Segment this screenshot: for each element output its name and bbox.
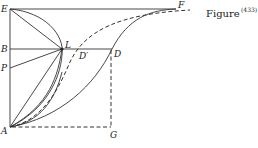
dashed-curve-AD'F xyxy=(10,10,190,127)
label-P: P xyxy=(0,63,8,73)
geometry-diagram: E F B P L D′ D A G Figure (433) xyxy=(0,0,258,148)
label-A: A xyxy=(0,126,8,136)
figure-caption: Figure xyxy=(206,8,240,19)
line-EL xyxy=(10,9,62,49)
figure-caption-number: (433) xyxy=(241,6,257,13)
label-F: F xyxy=(177,0,185,10)
label-B: B xyxy=(0,44,8,54)
line-AL xyxy=(10,49,62,127)
label-G: G xyxy=(110,130,117,140)
circle-arc-ELA xyxy=(10,9,62,127)
label-E: E xyxy=(0,4,8,14)
label-L: L xyxy=(64,40,71,50)
label-D: D xyxy=(113,49,121,59)
line-PL xyxy=(10,49,62,68)
point-L xyxy=(60,47,63,50)
label-D-prime: D′ xyxy=(78,51,88,61)
